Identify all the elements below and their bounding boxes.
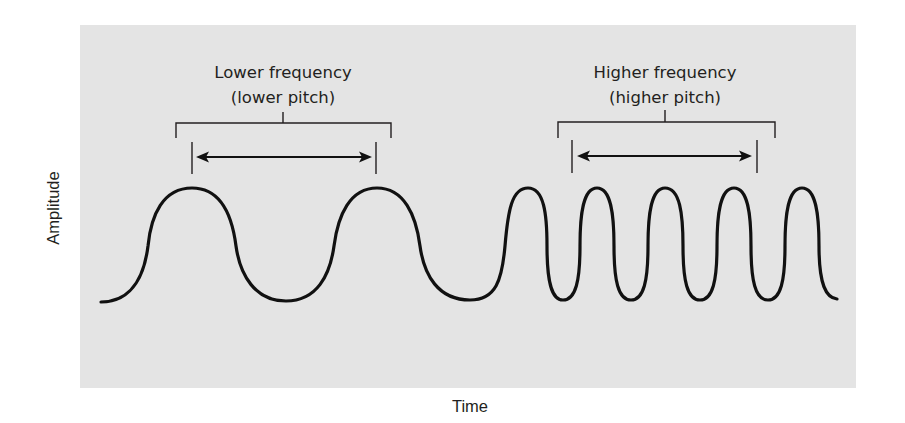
x-axis-label: Time <box>452 397 488 415</box>
y-axis-label: Amplitude <box>44 171 62 244</box>
frequency-diagram: Amplitude Time Lower frequency (lower pi… <box>0 0 905 423</box>
high-frequency-subtitle: (higher pitch) <box>609 88 721 107</box>
low-frequency-subtitle: (lower pitch) <box>231 88 335 107</box>
low-frequency-title: Lower frequency <box>214 63 352 82</box>
high-frequency-title: Higher frequency <box>594 63 737 82</box>
diagram-panel <box>80 25 856 388</box>
